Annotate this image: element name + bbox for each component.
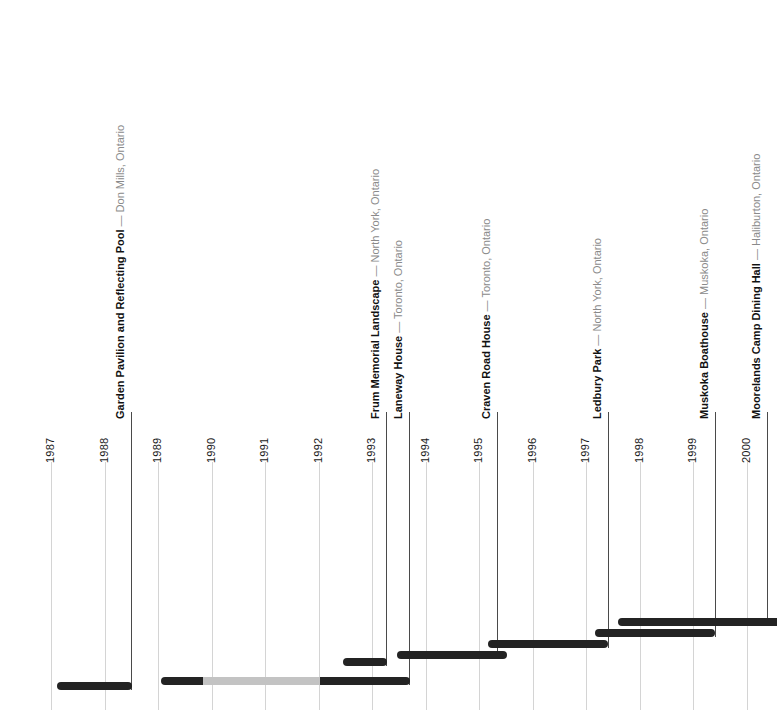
timeline-bar-muskoka-boathouse[interactable] bbox=[595, 629, 715, 637]
leader-line-ledbury-park bbox=[608, 412, 609, 648]
year-tick-label: 1994 bbox=[420, 438, 431, 463]
project-label-separator: — bbox=[114, 215, 126, 226]
project-label-separator: — bbox=[750, 249, 762, 260]
gridline-1991 bbox=[265, 462, 266, 710]
gridline-1996 bbox=[533, 462, 534, 710]
leader-line-frum-memorial bbox=[386, 412, 387, 666]
project-label-frum-memorial[interactable]: Frum Memorial Landscape — North York, On… bbox=[370, 169, 381, 419]
project-location: Toronto, Ontario bbox=[480, 219, 492, 298]
project-location: Toronto, Ontario bbox=[392, 240, 404, 319]
project-name: Frum Memorial Landscape bbox=[369, 280, 381, 419]
project-location: North York, Ontario bbox=[369, 169, 381, 263]
project-label-laneway-house[interactable]: Laneway House — Toronto, Ontario bbox=[393, 240, 404, 419]
year-tick-label: 1990 bbox=[206, 438, 217, 463]
timeline-bar-laneway-house-seg2[interactable] bbox=[203, 677, 320, 685]
project-location: North York, Ontario bbox=[591, 238, 603, 332]
year-tick-label: 1989 bbox=[152, 438, 163, 463]
timeline-bar-laneway-house-seg1[interactable] bbox=[161, 677, 203, 685]
project-name: Ledbury Park bbox=[591, 349, 603, 419]
gridline-1997 bbox=[586, 462, 587, 710]
year-tick-label: 1996 bbox=[527, 438, 538, 463]
gridline-2000 bbox=[747, 462, 748, 710]
year-tick-label: 1987 bbox=[45, 438, 56, 463]
project-label-craven-road-house[interactable]: Craven Road House — Toronto, Ontario bbox=[481, 219, 492, 419]
leader-line-moorelands-camp bbox=[767, 412, 768, 626]
timeline-bar-frum-memorial[interactable] bbox=[343, 658, 387, 666]
project-label-separator: — bbox=[591, 335, 603, 346]
project-location: Haliburton, Ontario bbox=[750, 154, 762, 246]
project-label-garden-pavilion[interactable]: Garden Pavilion and Reflecting Pool — Do… bbox=[115, 125, 126, 419]
gridline-1989 bbox=[158, 462, 159, 710]
project-label-separator: — bbox=[369, 266, 381, 277]
gridline-1988 bbox=[105, 462, 106, 710]
gridline-1998 bbox=[640, 462, 641, 710]
project-location: Muskoka, Ontario bbox=[698, 209, 710, 295]
year-tick-label: 1997 bbox=[580, 438, 591, 463]
year-tick-label: 2000 bbox=[741, 438, 752, 463]
gridline-1992 bbox=[319, 462, 320, 710]
gridline-1990 bbox=[212, 462, 213, 710]
gridline-1993 bbox=[372, 462, 373, 710]
timeline-bar-craven-road-house[interactable] bbox=[397, 651, 507, 659]
year-tick-label: 1991 bbox=[259, 438, 270, 463]
year-tick-label: 1999 bbox=[687, 438, 698, 463]
leader-line-laneway-house bbox=[409, 412, 410, 685]
timeline-bar-garden-pavilion[interactable] bbox=[57, 682, 132, 690]
leader-line-craven-road-house bbox=[497, 412, 498, 659]
year-tick-label: 1998 bbox=[634, 438, 645, 463]
year-tick-label: 1988 bbox=[99, 438, 110, 463]
gridline-1994 bbox=[426, 462, 427, 710]
project-label-separator: — bbox=[392, 322, 404, 333]
gridline-1995 bbox=[479, 462, 480, 710]
project-name: Muskoka Boathouse bbox=[698, 312, 710, 419]
timeline-bar-moorelands-camp[interactable] bbox=[618, 618, 777, 626]
project-label-separator: — bbox=[480, 300, 492, 311]
gridline-1999 bbox=[693, 462, 694, 710]
project-label-ledbury-park[interactable]: Ledbury Park — North York, Ontario bbox=[592, 238, 603, 419]
year-tick-label: 1995 bbox=[473, 438, 484, 463]
project-name: Craven Road House bbox=[480, 314, 492, 419]
project-label-moorelands-camp[interactable]: Moorelands Camp Dining Hall — Haliburton… bbox=[751, 154, 762, 419]
timeline-bar-ledbury-park[interactable] bbox=[488, 640, 608, 648]
project-label-separator: — bbox=[698, 298, 710, 309]
project-name: Garden Pavilion and Reflecting Pool bbox=[114, 230, 126, 419]
gridline-1987 bbox=[51, 462, 52, 710]
project-location: Don Mills, Ontario bbox=[114, 125, 126, 212]
project-timeline-chart: 1987198819891990199119921993199419951996… bbox=[0, 0, 777, 710]
leader-line-garden-pavilion bbox=[131, 412, 132, 690]
leader-line-muskoka-boathouse bbox=[715, 412, 716, 637]
project-name: Moorelands Camp Dining Hall bbox=[750, 263, 762, 419]
timeline-bar-laneway-house-seg3[interactable] bbox=[320, 677, 410, 685]
project-label-muskoka-boathouse[interactable]: Muskoka Boathouse — Muskoka, Ontario bbox=[699, 209, 710, 419]
year-tick-label: 1992 bbox=[313, 438, 324, 463]
year-tick-label: 1993 bbox=[366, 438, 377, 463]
project-name: Laneway House bbox=[392, 336, 404, 419]
